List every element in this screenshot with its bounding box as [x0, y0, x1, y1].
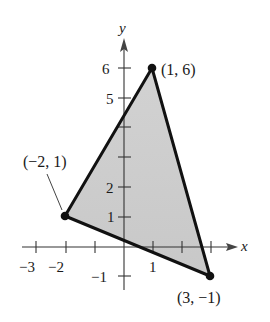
vertex-point-b [148, 64, 157, 73]
y-axis-label: y [117, 20, 126, 36]
y-tick-label: −1 [91, 269, 107, 285]
x-tick-label: −2 [48, 259, 64, 275]
point-label-c: (3, −1) [177, 289, 221, 307]
x-axis-label: x [240, 238, 248, 254]
y-tick-label: 1 [107, 209, 115, 225]
y-tick-label: 2 [106, 180, 114, 196]
x-tick-label: −3 [19, 259, 35, 275]
label-leader-line [47, 174, 62, 210]
coordinate-plane: y x −3 −2 1 6 5 2 1 −1 (1, 6) (−2, 1) (3… [0, 0, 270, 322]
vertex-point-a [61, 212, 70, 221]
point-label-a: (−2, 1) [23, 153, 67, 171]
y-tick-label: 5 [106, 91, 114, 107]
point-label-b: (1, 6) [161, 61, 196, 79]
y-tick-label: 6 [102, 61, 110, 77]
x-tick-label: 1 [149, 259, 157, 275]
vertex-point-c [206, 272, 215, 281]
